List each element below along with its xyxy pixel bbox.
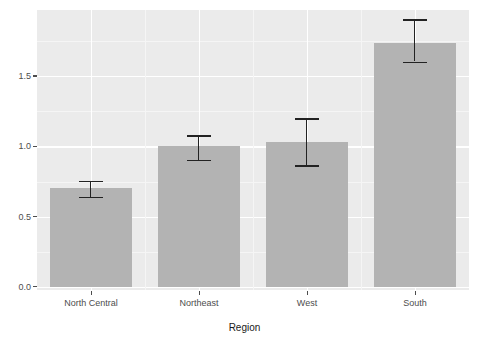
x-tick-label-north-central: North Central <box>31 298 151 309</box>
x-tick-label-west: West <box>247 298 367 309</box>
errorbar-line-northeast <box>198 135 200 160</box>
errorbar-cap-upper-south <box>403 19 427 21</box>
errorbar-line-north-central <box>90 181 92 199</box>
bar-chart-figure: 1.5 1.0 0.5 0.0 North Central Northeast … <box>0 0 489 343</box>
gridline-minor-v <box>361 10 362 290</box>
x-tick-label-northeast: Northeast <box>139 298 259 309</box>
errorbar-line-west <box>306 118 308 165</box>
errorbar-cap-lower-west <box>295 165 319 167</box>
y-axis: 1.5 1.0 0.5 0.0 <box>0 0 31 343</box>
bar-south[interactable] <box>374 43 456 287</box>
y-tick-mark <box>33 216 37 217</box>
y-tick-label-0-0: 0.0 <box>18 282 31 292</box>
bar-northeast[interactable] <box>158 146 240 286</box>
x-tick-mark <box>199 291 200 295</box>
errorbar-cap-lower-north-central <box>79 197 103 199</box>
errorbar-cap-lower-northeast <box>187 160 211 162</box>
errorbar-line-south <box>414 19 416 61</box>
x-tick-label-south: South <box>355 298 475 309</box>
y-tick-label-0-5: 0.5 <box>18 212 31 222</box>
x-tick-mark <box>91 291 92 295</box>
gridline-minor-v <box>145 10 146 290</box>
errorbar-cap-upper-northeast <box>187 135 211 137</box>
y-tick-label-1-5: 1.5 <box>18 71 31 81</box>
bar-north-central[interactable] <box>50 188 132 287</box>
errorbar-cap-lower-south <box>403 62 427 64</box>
y-tick-mark <box>33 146 37 147</box>
y-tick-mark <box>33 75 37 76</box>
gridline-minor-v <box>253 10 254 290</box>
x-axis-title: Region <box>0 322 489 333</box>
y-tick-mark <box>33 286 37 287</box>
x-tick-mark <box>307 291 308 295</box>
plot-panel <box>37 10 469 290</box>
errorbar-cap-upper-north-central <box>79 181 103 183</box>
errorbar-cap-upper-west <box>295 118 319 120</box>
x-tick-mark <box>415 291 416 295</box>
y-tick-label-1-0: 1.0 <box>18 141 31 151</box>
